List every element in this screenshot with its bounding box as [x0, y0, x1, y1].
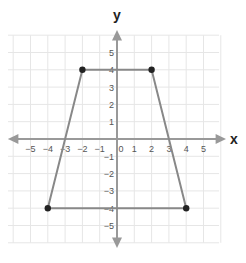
x-tick-label: −2 [77, 144, 87, 154]
x-tick-label: 5 [201, 144, 206, 154]
y-tick-label: 3 [109, 83, 114, 93]
vertex-point [45, 205, 51, 211]
y-tick-label: −3 [104, 186, 114, 196]
y-tick-label: −5 [104, 221, 114, 231]
coordinate-plane: xy−5−4−3−2−101234554321−1−2−3−4−5 [0, 0, 246, 263]
x-tick-label: 4 [184, 144, 189, 154]
x-axis-label: x [230, 131, 238, 147]
x-tick-label: −5 [25, 144, 35, 154]
y-tick-label: −2 [104, 169, 114, 179]
vertex-point [79, 67, 85, 73]
y-axis-label: y [113, 7, 121, 23]
y-tick-label: 5 [109, 48, 114, 58]
vertex-point [148, 67, 154, 73]
x-tick-label: 1 [132, 144, 137, 154]
x-tick-label: 0 [118, 144, 123, 154]
vertex-point [183, 205, 189, 211]
x-tick-label: 2 [149, 144, 154, 154]
x-tick-label: −4 [43, 144, 53, 154]
y-tick-label: 2 [109, 100, 114, 110]
y-tick-label: −1 [104, 152, 114, 162]
y-tick-label: 1 [109, 117, 114, 127]
trapezoid-graph: xy−5−4−3−2−101234554321−1−2−3−4−5 [0, 0, 246, 263]
